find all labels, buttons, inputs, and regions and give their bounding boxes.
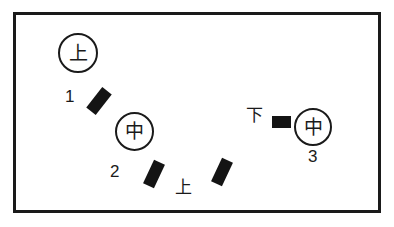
label-kanji-ue-bottom: 上 (175, 179, 192, 196)
bar-marker-3 (211, 158, 233, 187)
node-circle-1: 上 (58, 33, 98, 73)
bar-marker-1 (86, 87, 111, 115)
node-1-glyph: 上 (69, 43, 88, 62)
node-3-glyph: 中 (304, 117, 323, 136)
node-circle-3: 中 (294, 108, 332, 146)
label-number-2: 2 (110, 163, 119, 180)
node-2-glyph: 中 (125, 122, 144, 141)
bar-marker-4-horizontal (272, 116, 291, 128)
label-number-1: 1 (65, 88, 74, 105)
diagram-frame: 上 中 中 1 2 3 上 下 (13, 12, 381, 213)
label-kanji-shita: 下 (246, 107, 263, 124)
node-circle-2: 中 (115, 112, 154, 151)
bar-marker-2 (143, 160, 165, 189)
figure-root: 上 中 中 1 2 3 上 下 (0, 0, 394, 227)
label-number-3: 3 (308, 148, 317, 165)
